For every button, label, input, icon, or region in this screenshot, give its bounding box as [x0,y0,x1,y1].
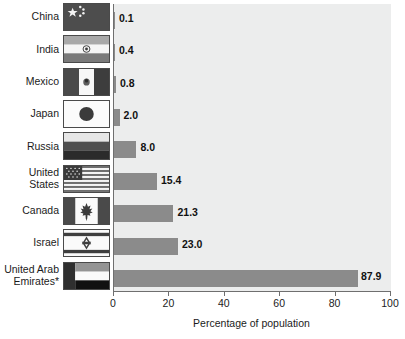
category-label-japan: Japan [0,108,62,120]
flag-china-icon [63,3,110,31]
category-rows: China India [0,0,405,291]
category-label-israel: Israel [0,237,62,249]
flag-india-icon [63,35,110,63]
x-axis-tick-80 [335,291,336,296]
category-label-russia: Russia [0,141,62,153]
x-axis-tick-20 [168,291,169,296]
x-axis-tick-label-40: 40 [218,297,230,309]
bar-chart: 0.1 0.4 0.8 2.0 8.0 15.4 21.3 23.0 87.9 … [0,0,405,339]
x-axis-tick-40 [224,291,225,296]
chart-row-japan: Japan [0,98,405,130]
category-label-united-states: United States [0,167,62,190]
chart-row-israel: Israel [0,227,405,259]
category-label-united-arab-emirates: United Arab Emirates* [0,264,62,287]
x-axis-tick-label-80: 80 [329,297,341,309]
x-axis-tick-0 [113,291,114,296]
x-axis-tick-label-60: 60 [273,297,285,309]
chart-row-united-states: United States [0,163,405,195]
chart-row-united-arab-emirates: United Arab Emirates* [0,259,405,291]
category-label-india: India [0,44,62,56]
chart-row-china: China [0,1,405,33]
category-label-canada: Canada [0,205,62,217]
flag-japan-icon [63,100,110,128]
flag-united-states-icon [63,165,110,193]
chart-row-canada: Canada [0,195,405,227]
x-axis-tick-label-20: 20 [163,297,175,309]
chart-row-russia: Russia [0,130,405,162]
x-axis-tick-60 [279,291,280,296]
flag-canada-icon [63,197,110,225]
chart-row-mexico: Mexico [0,66,405,98]
x-axis-line [113,291,390,292]
category-label-china: China [0,11,62,23]
x-axis-tick-100 [390,291,391,296]
x-axis-title: Percentage of population [113,317,390,329]
flag-russia-icon [63,132,110,160]
flag-united-arab-emirates-icon [63,262,110,290]
category-label-mexico: Mexico [0,76,62,88]
flag-mexico-icon [63,68,110,96]
flag-israel-icon [63,229,110,257]
x-axis-tick-label-0: 0 [110,297,116,309]
x-axis-tick-label-100: 100 [381,297,399,309]
chart-row-india: India [0,33,405,65]
